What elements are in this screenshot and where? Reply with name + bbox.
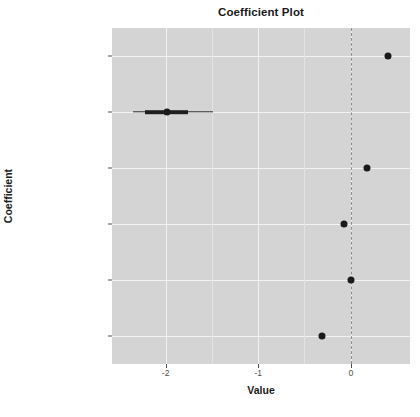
gridline-horizontal (112, 56, 410, 57)
y-tick-mark (108, 224, 112, 225)
data-point[interactable] (341, 221, 348, 228)
x-tick-label: -2 (162, 368, 170, 378)
gridline-horizontal (112, 280, 410, 281)
gridline-minor-vertical (304, 28, 305, 364)
data-point[interactable] (163, 109, 170, 116)
gridline-horizontal (112, 336, 410, 337)
gridline-minor-vertical (212, 28, 213, 364)
gridline-vertical (166, 28, 167, 364)
x-tick-label: 0 (348, 368, 353, 378)
data-point[interactable] (347, 277, 354, 284)
y-tick-mark (108, 112, 112, 113)
zero-reference-line (351, 28, 352, 364)
y-axis-title: Coefficient (2, 169, 14, 223)
y-tick-mark (108, 280, 112, 281)
gridline-vertical (258, 28, 259, 364)
data-point[interactable] (319, 333, 326, 340)
chart-title: Coefficient Plot (112, 6, 410, 18)
x-tick-label: -1 (254, 368, 262, 378)
plot-panel (112, 28, 410, 364)
data-point[interactable] (363, 165, 370, 172)
gridline-horizontal (112, 224, 410, 225)
data-point[interactable] (384, 53, 391, 60)
coefficient-plot: Coefficient Plot OwnRentRentedOwnRentOut… (0, 0, 420, 417)
y-tick-mark (108, 168, 112, 169)
y-tick-mark (108, 336, 112, 337)
x-axis-title: Value (112, 384, 410, 396)
y-tick-mark (108, 56, 112, 57)
